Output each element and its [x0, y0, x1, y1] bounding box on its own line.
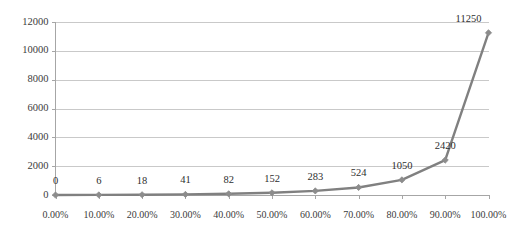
data-point-label: 11250 [441, 14, 497, 25]
y-axis-tick-label: 10000 [22, 45, 48, 56]
y-axis-tick-label: 4000 [28, 132, 49, 143]
y-axis-tick-label: 2000 [28, 161, 49, 172]
y-axis-tick-label: 0 [43, 190, 48, 201]
y-axis-tick-label: 8000 [28, 74, 49, 85]
data-point-marker [139, 192, 145, 198]
data-point-marker [356, 184, 362, 190]
y-axis-tick-label: 12000 [22, 17, 48, 28]
data-point-marker [182, 191, 188, 197]
line-chart: 020004000600080001000012000 0.00%10.00%2… [0, 0, 524, 237]
chart-plot-area [0, 0, 524, 237]
data-point-marker [96, 192, 102, 198]
data-point-label: 2420 [417, 141, 473, 152]
y-axis-tick-marks [52, 23, 56, 196]
data-point-label: 1050 [374, 161, 430, 172]
data-point-marker [312, 188, 318, 194]
x-axis-tick-label: 100.00% [459, 210, 519, 220]
y-axis-tick-label: 6000 [28, 103, 49, 114]
data-point-marker [52, 192, 58, 198]
data-point-marker [485, 30, 491, 36]
data-point-marker [269, 190, 275, 196]
